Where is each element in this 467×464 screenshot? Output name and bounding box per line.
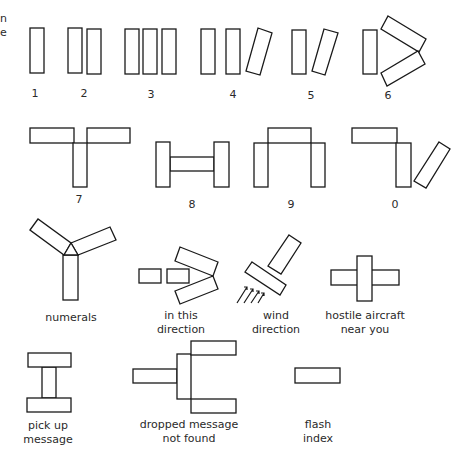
symbol-label-digit-4: 4 [230, 88, 237, 102]
symbol-dropped-message-not-found [133, 341, 236, 413]
panel-bar [167, 269, 189, 283]
label-line: 7 [76, 193, 83, 207]
symbol-label-digit-0: 0 [392, 198, 399, 212]
panel-bar [214, 142, 229, 187]
panel-bar [30, 28, 44, 73]
panel-bar-tilted [246, 28, 272, 75]
panel-bar [363, 30, 377, 74]
panel-bar [295, 368, 340, 383]
symbol-digit-4 [201, 28, 272, 75]
symbol-wind-direction [237, 235, 301, 303]
symbol-digit-5 [292, 29, 338, 75]
panel-bar [73, 143, 87, 187]
symbol-digit-2 [68, 28, 101, 74]
symbol-digit-1 [30, 28, 44, 73]
panel-bar [42, 367, 56, 398]
panel-bar-tilted [71, 227, 116, 255]
label-line: direction [252, 323, 300, 337]
symbol-label-digit-1: 1 [32, 87, 39, 101]
panel-bar [191, 399, 236, 413]
label-line: 0 [392, 198, 399, 212]
symbol-label-digit-5: 5 [308, 89, 315, 103]
panel-bar [133, 369, 177, 383]
label-line: 8 [189, 198, 196, 212]
symbol-label-digit-6: 6 [385, 89, 392, 103]
panel-bar-tilted [312, 29, 338, 75]
label-line: not found [140, 432, 239, 446]
panel-bar [162, 29, 176, 74]
label-line: numerals [45, 311, 96, 325]
panel-bar-tilted [268, 235, 301, 274]
wind-arrows-icon [237, 287, 264, 303]
panel-bar [27, 398, 71, 412]
label-line: near you [325, 323, 405, 337]
label-line: message [23, 433, 72, 447]
symbol-label-flash-index: flashindex [303, 418, 333, 446]
panel-bar [139, 269, 161, 283]
label-line: direction [157, 323, 205, 337]
label-line: in this [157, 309, 205, 323]
symbol-hostile-aircraft-near-you [331, 256, 399, 301]
label-line: hostile aircraft [325, 309, 405, 323]
symbol-label-in-this-direction: in thisdirection [157, 309, 205, 337]
label-line: 9 [288, 198, 295, 212]
symbol-label-digit-3: 3 [148, 88, 155, 102]
label-line: index [303, 432, 333, 446]
label-line: 1 [32, 87, 39, 101]
symbol-label-pick-up-message: pick upmessage [23, 419, 72, 447]
symbol-digit-6 [363, 16, 426, 86]
panel-bar [28, 353, 71, 367]
symbol-digit-7 [30, 128, 130, 187]
panel-bar [30, 128, 74, 143]
panel-bar [68, 28, 82, 73]
panel-bar [396, 143, 411, 187]
symbol-pick-up-message [27, 353, 71, 412]
label-line: 3 [148, 88, 155, 102]
symbol-digit-3 [125, 29, 176, 74]
symbol-label-hostile-aircraft-near-you: hostile aircraftnear you [325, 309, 405, 337]
signal-symbol-diagram [0, 0, 467, 464]
label-line: 5 [308, 89, 315, 103]
panel-bar [87, 128, 130, 143]
panel-bar [156, 142, 170, 187]
panel-bar [254, 143, 268, 187]
symbol-label-digit-8: 8 [189, 198, 196, 212]
symbol-numerals [30, 219, 116, 300]
panel-bar [63, 255, 78, 300]
label-line: flash [303, 418, 333, 432]
symbol-label-wind-direction: winddirection [252, 309, 300, 337]
symbol-flash-index [295, 368, 340, 383]
symbol-label-digit-7: 7 [76, 193, 83, 207]
label-line: 2 [81, 87, 88, 101]
symbol-in-this-direction [139, 247, 218, 304]
panel-bar [125, 29, 139, 74]
panel-bar [268, 128, 311, 143]
panel-bar-tilted [30, 219, 71, 255]
panel-bar [87, 29, 101, 74]
symbol-digit-8 [156, 142, 229, 187]
panel-bar [143, 29, 157, 74]
panel-bar [357, 256, 372, 301]
panel-bar-tilted [381, 16, 426, 52]
panel-bar-tilted [381, 51, 425, 86]
label-line: dropped message [140, 418, 239, 432]
symbol-label-digit-9: 9 [288, 198, 295, 212]
label-line: wind [252, 309, 300, 323]
label-line: 4 [230, 88, 237, 102]
panel-bar [201, 29, 215, 74]
panel-bar [226, 29, 240, 74]
panel-bar [311, 143, 325, 187]
label-line: pick up [23, 419, 72, 433]
symbol-digit-9 [254, 128, 325, 187]
panel-bar [191, 341, 236, 355]
symbol-digit-0 [352, 128, 450, 188]
symbol-label-dropped-message-not-found: dropped messagenot found [140, 418, 239, 446]
panel-bar [177, 354, 191, 399]
panel-bar-tilted [414, 142, 450, 188]
panel-bar [352, 128, 397, 143]
symbol-label-digit-2: 2 [81, 87, 88, 101]
panel-bar [292, 30, 306, 74]
panel-bar [170, 157, 214, 171]
symbol-label-numerals: numerals [45, 311, 96, 325]
label-line: 6 [385, 89, 392, 103]
